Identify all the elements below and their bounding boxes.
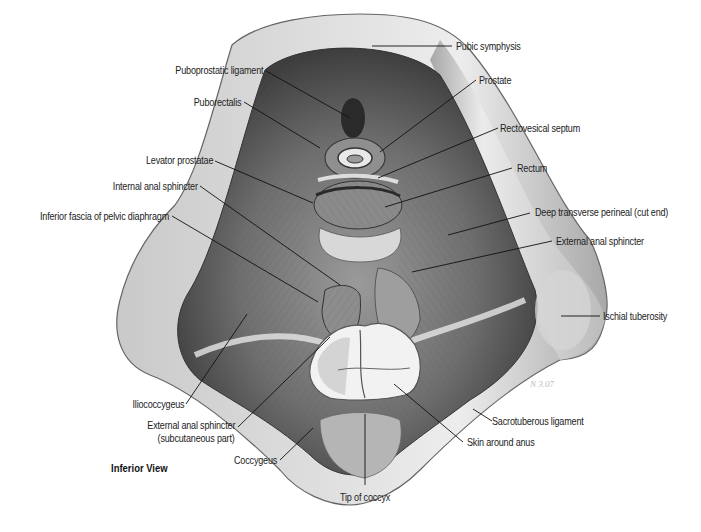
label-deep-transverse-perineal: Deep transverse perineal (cut end): [535, 206, 668, 218]
label-external-anal-sphincter-subcutaneous: External anal sphincter: [147, 419, 235, 431]
anatomy-figure: N 3.07: [0, 0, 701, 532]
view-caption: Inferior View: [111, 462, 168, 474]
label-pubic-symphysis: Pubic symphysis: [456, 40, 521, 52]
label-inferior-fascia-pelvic-diaphragm: Inferior fascia of pelvic diaphragm: [40, 210, 169, 222]
label-coccygeus: Coccygeus: [234, 454, 277, 466]
label-tip-of-coccyx: Tip of coccyx: [340, 491, 390, 503]
label-iliococcygeus: Iliococcygeus: [132, 398, 184, 410]
label-internal-anal-sphincter: Internal anal sphincter: [113, 180, 198, 192]
label-rectum: Rectum: [517, 162, 547, 174]
label-puborectalis: Puborectalis: [193, 96, 241, 108]
label-levator-prostatae: Levator prostatae: [146, 154, 213, 166]
pelvic-floor-illustration: N 3.07: [0, 0, 701, 532]
label-sacrotuberous-ligament: Sacrotuberous ligament: [492, 415, 584, 427]
label-prostate: Prostate: [479, 74, 511, 86]
label-external-anal-sphincter-subcutaneous-part: (subcutaneous part): [158, 432, 235, 444]
label-external-anal-sphincter: External anal sphincter: [556, 235, 644, 247]
label-ischial-tuberosity: Ischial tuberosity: [603, 310, 667, 322]
artist-signature: N 3.07: [529, 379, 555, 389]
label-puboprostatic-ligament: Puboprostatic ligament: [175, 64, 263, 76]
label-rectovesical-septum: Rectovesical septum: [500, 122, 580, 134]
label-skin-around-anus: Skin around anus: [467, 436, 535, 448]
